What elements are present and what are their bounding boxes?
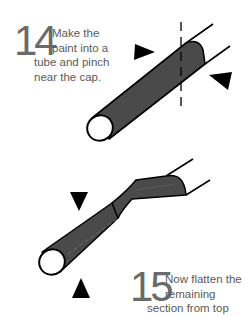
triangle-marker-down-icon bbox=[70, 192, 88, 211]
tube-step-14 bbox=[82, 24, 230, 146]
step-15-text: Now flatten the remaining bbox=[165, 272, 242, 301]
step-15-line-3: section from top bbox=[147, 301, 229, 316]
triangle-marker-right-icon bbox=[134, 44, 155, 60]
triangle-marker-up-icon bbox=[72, 278, 90, 298]
triangle-marker-left-icon bbox=[209, 72, 232, 90]
step-15-caption: 15 Now flatten the remaining section fro… bbox=[128, 262, 245, 310]
step-15-line-2: remaining bbox=[165, 287, 242, 302]
step-15-line-1: Now flatten the bbox=[165, 272, 242, 287]
step-15-text-cont: section from top bbox=[147, 301, 229, 316]
